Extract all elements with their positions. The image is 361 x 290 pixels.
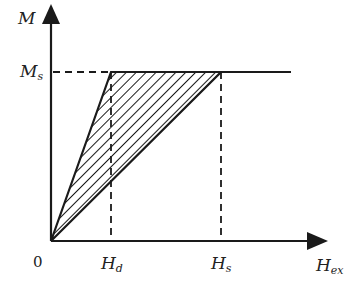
ms-label: Ms bbox=[20, 63, 43, 82]
diagram-graphics bbox=[0, 0, 361, 290]
y-axis-label: M bbox=[18, 10, 35, 27]
magnetization-diagram: M Ms 0 Hd Hs Hex bbox=[0, 0, 361, 290]
x-axis-label: Hex bbox=[316, 257, 344, 276]
hs-label: Hs bbox=[211, 255, 231, 274]
hd-label: Hd bbox=[101, 255, 123, 274]
y-axis-arrow-icon bbox=[42, 4, 60, 24]
hatched-region bbox=[51, 72, 221, 241]
origin-label: 0 bbox=[33, 255, 43, 270]
x-axis-arrow-icon bbox=[307, 232, 328, 250]
